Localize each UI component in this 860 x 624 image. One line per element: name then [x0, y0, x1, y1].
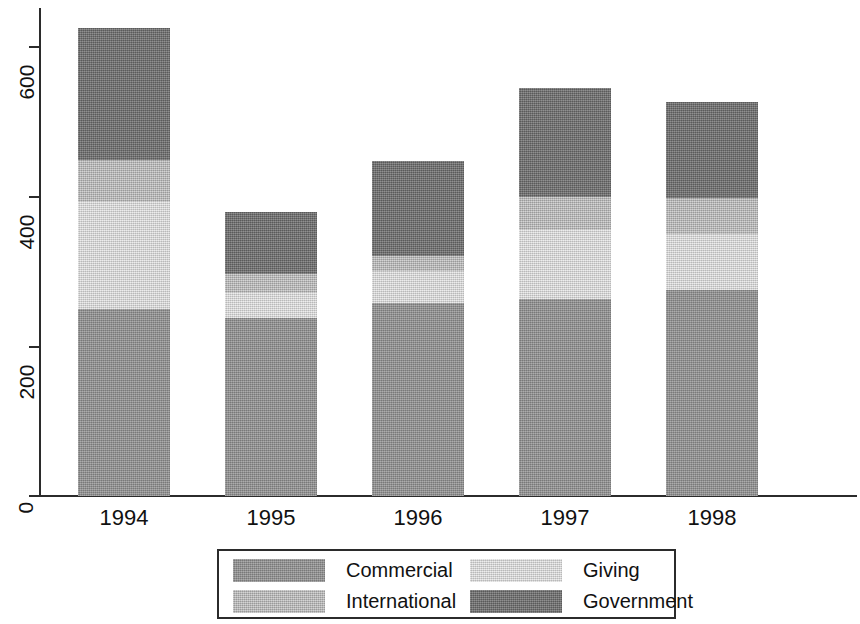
legend-label-giving: Giving: [583, 559, 640, 582]
bar-segment-1995-international: [225, 274, 317, 293]
x-tick-label-1997: 1997: [519, 505, 611, 531]
bar-segment-1997-government: [519, 88, 611, 197]
bar-segment-1996-commercial: [372, 303, 464, 496]
bar-segment-1998-international: [666, 198, 758, 234]
plot-area: 600 400 200 0 19941995199619971998: [0, 0, 860, 520]
y-tick-label-0: 0: [16, 502, 37, 514]
bar-1994: [78, 0, 170, 496]
legend-swatch-government: [470, 590, 562, 613]
y-tick-label-400: 400: [16, 215, 37, 250]
bar-1995: [225, 0, 317, 496]
x-tick-label-1995: 1995: [225, 505, 317, 531]
bar-1996: [372, 0, 464, 496]
bar-segment-1996-giving: [372, 271, 464, 303]
y-tick-label-200: 200: [16, 365, 37, 400]
y-tick-0: [29, 495, 40, 497]
bar-1997: [519, 0, 611, 496]
y-tick-400: [29, 196, 40, 198]
bar-segment-1994-government: [78, 28, 170, 160]
x-tick-label-1998: 1998: [666, 505, 758, 531]
y-tick-600: [29, 46, 40, 48]
bar-segment-1997-giving: [519, 230, 611, 300]
legend-item-commercial[interactable]: Commercial: [233, 559, 453, 582]
stacked-bar-chart: 600 400 200 0 19941995199619971998 Comme…: [0, 0, 860, 624]
bar-segment-1998-giving: [666, 234, 758, 290]
legend-item-government[interactable]: Government: [470, 590, 693, 613]
legend-swatch-giving: [470, 559, 562, 582]
bar-segment-1995-giving: [225, 293, 317, 318]
x-tick-label-1994: 1994: [78, 505, 170, 531]
bar-segment-1994-international: [78, 160, 170, 202]
bar-segment-1997-commercial: [519, 299, 611, 496]
legend-item-giving[interactable]: Giving: [470, 559, 640, 582]
legend-swatch-commercial: [233, 559, 325, 582]
bar-segment-1994-giving: [78, 202, 170, 309]
bar-segment-1998-commercial: [666, 290, 758, 496]
bar-segment-1994-commercial: [78, 309, 170, 496]
legend-label-commercial: Commercial: [346, 559, 453, 582]
bar-segment-1996-international: [372, 256, 464, 271]
bar-segment-1996-government: [372, 161, 464, 256]
bar-segment-1995-government: [225, 212, 317, 274]
legend-swatch-international: [233, 590, 325, 613]
chart-legend: CommercialGivingInternationalGovernment: [217, 549, 676, 619]
y-tick-label-600: 600: [16, 65, 37, 100]
bar-segment-1998-government: [666, 102, 758, 198]
bar-1998: [666, 0, 758, 496]
legend-item-international[interactable]: International: [233, 590, 456, 613]
y-tick-200: [29, 346, 40, 348]
x-tick-label-1996: 1996: [372, 505, 464, 531]
bar-segment-1995-commercial: [225, 318, 317, 496]
y-axis-line: [39, 8, 41, 497]
bar-segment-1997-international: [519, 197, 611, 230]
legend-label-government: Government: [583, 590, 693, 613]
legend-label-international: International: [346, 590, 456, 613]
